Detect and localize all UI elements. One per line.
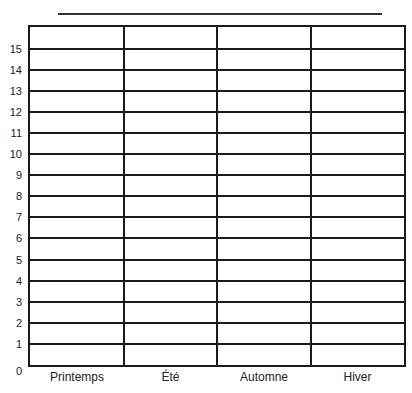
chart-grid (28, 25, 406, 367)
y-tick-label: 9 (0, 169, 22, 181)
y-tick-label: 12 (0, 106, 22, 118)
title-blank-line (58, 13, 382, 15)
y-tick-label: 0 (0, 365, 22, 377)
column-divider (310, 27, 312, 365)
y-tick-label: 13 (0, 85, 22, 97)
x-category-label: Automne (217, 370, 311, 384)
y-tick-label: 3 (0, 296, 22, 308)
y-tick-label: 7 (0, 211, 22, 223)
y-tick-label: 2 (0, 317, 22, 329)
x-category-label: Été (124, 370, 218, 384)
y-tick-label: 11 (0, 127, 22, 139)
y-tick-label: 6 (0, 232, 22, 244)
y-tick-label: 8 (0, 190, 22, 202)
x-category-label: Hiver (311, 370, 405, 384)
column-divider (216, 27, 218, 365)
y-tick-label: 14 (0, 64, 22, 76)
column-divider (123, 27, 125, 365)
y-tick-label: 4 (0, 275, 22, 287)
y-tick-label: 10 (0, 148, 22, 160)
y-tick-label: 1 (0, 338, 22, 350)
x-category-label: Printemps (30, 370, 124, 384)
y-tick-label: 5 (0, 254, 22, 266)
y-tick-label: 15 (0, 43, 22, 55)
